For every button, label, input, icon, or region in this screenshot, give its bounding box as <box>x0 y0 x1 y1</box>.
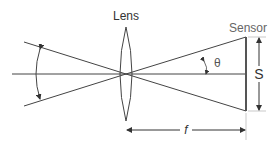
theta-label: θ <box>214 56 221 70</box>
sensor-label: Sensor <box>229 21 267 35</box>
ray-upper-left <box>24 42 126 74</box>
lens-label: Lens <box>113 9 139 23</box>
sensor-size-label: S <box>254 66 263 82</box>
theta-arc <box>204 61 207 74</box>
optics-diagram: Lens Sensor θ S f <box>0 0 277 144</box>
ray-lower-left <box>24 74 126 106</box>
ray-lower-right <box>126 74 246 111</box>
focal-length-label: f <box>184 123 189 137</box>
ray-upper-right <box>126 37 246 74</box>
